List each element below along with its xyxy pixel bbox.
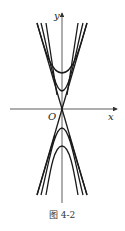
origin-label: O bbox=[48, 111, 56, 122]
figure-caption: 图 4-2 bbox=[49, 210, 75, 220]
hyperbola-diagram: y x O 图 4-2 bbox=[0, 0, 125, 231]
y-axis-label: y bbox=[53, 10, 60, 21]
x-axis-label: x bbox=[108, 111, 114, 122]
